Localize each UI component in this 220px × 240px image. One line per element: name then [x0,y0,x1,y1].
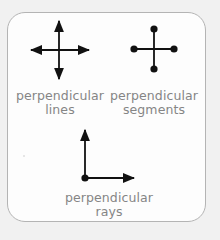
label-line-2: rays [59,205,159,219]
label-line-1: perpendicular [10,89,110,103]
perpendicular-segments-icon [130,25,177,72]
label-perpendicular-segments: perpendicular segments [104,89,204,117]
speck-mark [23,155,25,157]
label-line-2: segments [104,103,204,117]
label-line-1: perpendicular [59,191,159,205]
perpendicular-lines-icon [31,21,89,79]
label-line-2: lines [10,103,110,117]
label-line-1: perpendicular [104,89,204,103]
label-perpendicular-rays: perpendicular rays [59,191,159,219]
label-perpendicular-lines: perpendicular lines [10,89,110,117]
perpendicular-rays-icon [81,130,134,182]
